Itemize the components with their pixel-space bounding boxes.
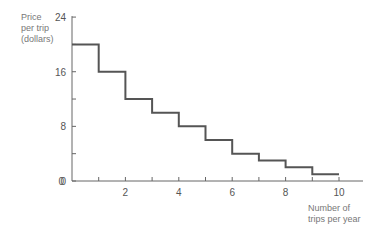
- step-chart: 0816240246810: [0, 0, 379, 232]
- y-tick-label: 8: [60, 121, 66, 132]
- demand-step-line: [72, 44, 339, 174]
- x-tick-label: 10: [333, 187, 345, 198]
- x-tick-label: 8: [283, 187, 289, 198]
- x-tick-label: 4: [176, 187, 182, 198]
- y-tick-label: 24: [55, 12, 67, 23]
- y-tick-label: 16: [55, 67, 67, 78]
- x-tick-label: 2: [123, 187, 129, 198]
- origin-label: 0: [58, 176, 64, 187]
- x-tick-label: 6: [229, 187, 235, 198]
